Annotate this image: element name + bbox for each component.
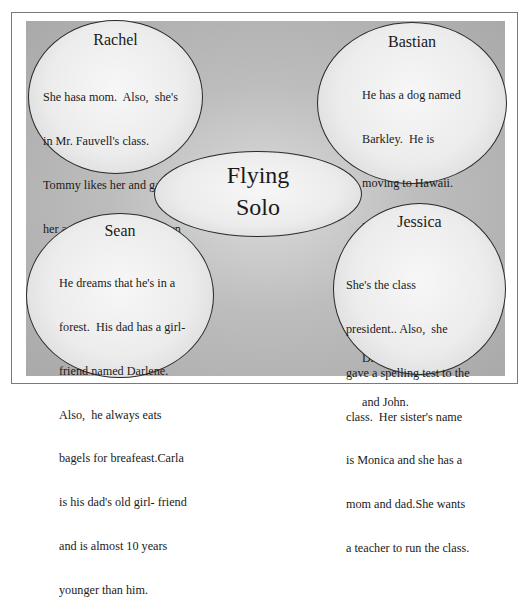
character-name: Sean bbox=[27, 222, 213, 240]
character-bubble-sean: Sean He dreams that he's in a forest. Hi… bbox=[26, 213, 214, 378]
character-bubble-jessica: Jessica She's the class president.. Also… bbox=[333, 203, 506, 375]
topic-title-line2: Solo bbox=[155, 192, 361, 222]
character-bubble-rachel: Rachel She hasa mom. Also, she's in Mr. … bbox=[28, 20, 203, 174]
topic-title-line1: Flying bbox=[155, 160, 361, 190]
character-name: Bastian bbox=[318, 33, 506, 51]
character-name: Rachel bbox=[29, 31, 202, 49]
character-description: He dreams that he's in a forest. His dad… bbox=[59, 247, 187, 601]
character-description: She's the class president.. Also, she ga… bbox=[346, 249, 470, 585]
character-name: Jessica bbox=[334, 213, 505, 231]
